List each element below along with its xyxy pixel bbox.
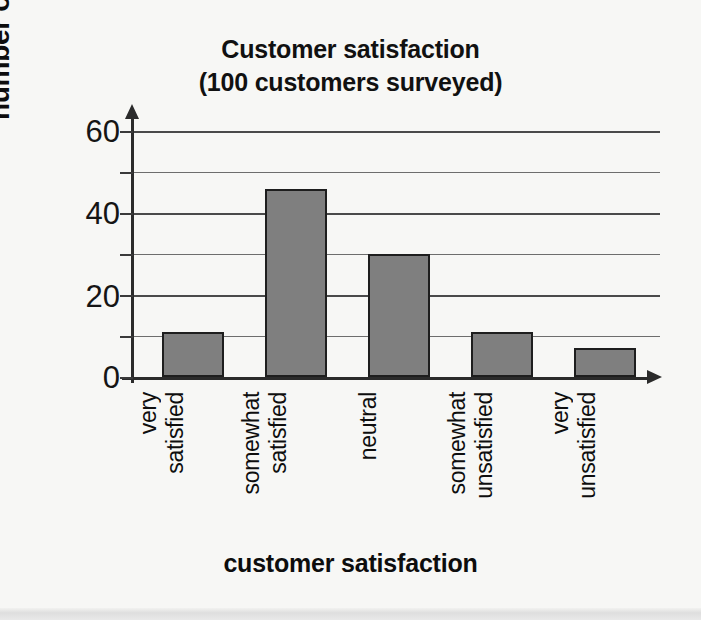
x-tick-label-line2: satisfied xyxy=(163,392,188,474)
y-tick-mark-20 xyxy=(120,295,133,297)
x-tick-label-very-satisfied: very satisfied xyxy=(134,392,190,542)
gridline-50 xyxy=(131,172,660,173)
y-tick-mark-10 xyxy=(120,336,133,338)
chart-title: Customer satisfaction (100 customers sur… xyxy=(0,33,701,99)
bar-neutral[interactable] xyxy=(368,254,430,377)
bar-somewhat-satisfied[interactable] xyxy=(265,189,327,377)
x-tick-label-line2: unsatisfied xyxy=(472,392,497,499)
x-tick-label-neutral: neutral xyxy=(340,392,396,542)
y-tick-mark-40 xyxy=(120,213,133,215)
y-tick-label-0: 0 xyxy=(60,362,120,393)
y-tick-label-40: 40 xyxy=(60,198,120,229)
y-axis-title: number of customers xyxy=(0,0,16,120)
chart-title-line1: Customer satisfaction xyxy=(221,35,479,63)
y-tick-mark-0 xyxy=(120,377,133,379)
x-tick-label-line1: somewhat xyxy=(445,392,470,494)
bar-very-satisfied[interactable] xyxy=(162,332,224,377)
y-tick-label-60: 60 xyxy=(60,116,120,147)
x-tick-label-line1: somewhat xyxy=(239,392,264,494)
y-tick-mark-60 xyxy=(120,131,133,133)
x-tick-label-line2: unsatisfied xyxy=(575,392,600,499)
y-axis-line xyxy=(131,112,134,383)
x-axis-title: customer satisfaction xyxy=(0,549,701,578)
page-bottom-edge xyxy=(0,608,701,620)
gridline-60 xyxy=(131,131,660,133)
x-tick-label-line1: very xyxy=(136,392,161,434)
x-tick-label-line2: satisfied xyxy=(266,392,291,474)
y-tick-label-20: 20 xyxy=(60,281,120,312)
x-tick-label-somewhat-satisfied: somewhat satisfied xyxy=(237,392,293,542)
y-tick-mark-30 xyxy=(120,254,133,256)
chart-title-line2: (100 customers surveyed) xyxy=(0,66,701,99)
x-axis-line xyxy=(122,377,649,380)
x-tick-label-very-unsatisfied: very unsatisfied xyxy=(546,392,602,542)
chart-page: Customer satisfaction (100 customers sur… xyxy=(0,0,701,620)
x-tick-label-line1: neutral xyxy=(356,392,381,460)
y-tick-mark-50 xyxy=(120,172,133,174)
x-tick-label-line1: very xyxy=(548,392,573,434)
y-axis-arrow-icon xyxy=(125,104,139,119)
bar-somewhat-unsatisfied[interactable] xyxy=(471,332,533,377)
bar-very-unsatisfied[interactable] xyxy=(574,348,636,377)
gridline-40 xyxy=(131,213,660,215)
x-tick-label-somewhat-unsatisfied: somewhat unsatisfied xyxy=(443,392,499,542)
plot-area xyxy=(131,125,661,383)
x-axis-arrow-icon xyxy=(647,370,662,384)
